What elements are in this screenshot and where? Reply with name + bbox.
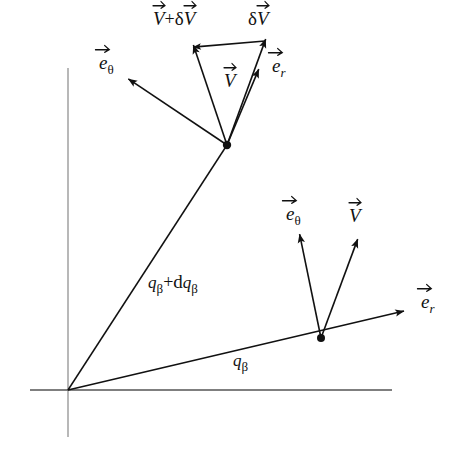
label-e-theta-upper: eθ xyxy=(99,52,114,76)
label-e-r-upper: er xyxy=(272,55,286,79)
label-v-lower: V xyxy=(349,205,361,225)
lower-vector-bundle xyxy=(300,234,358,338)
position-points-group xyxy=(223,141,325,342)
diagram-canvas xyxy=(0,0,465,449)
e-theta-upper-arrow xyxy=(128,79,227,145)
axes-group xyxy=(30,68,392,437)
v-plus-delta-v-arrow xyxy=(193,45,227,145)
upper-position-point xyxy=(223,141,231,149)
lower-position-point xyxy=(317,334,325,342)
label-angle-upper: qβ+dqβ xyxy=(148,272,198,295)
e-theta-lower-arrow xyxy=(300,234,321,338)
label-e-theta-lower: eθ xyxy=(286,203,301,227)
label-delta-v: δV xyxy=(248,8,269,28)
delta-v-arrow xyxy=(193,41,265,47)
label-angle-lower: qβ xyxy=(233,352,248,373)
ray-q-beta-plus-dq-beta xyxy=(68,145,227,390)
label-v-upper: V xyxy=(224,70,236,90)
label-e-r-lower: er xyxy=(421,291,435,315)
upper-vector-bundle xyxy=(128,39,265,145)
label-v-plus-delta-v: V+δV xyxy=(153,8,195,28)
vector-diagram-figure: V+δV δV V eθ er eθ V er qβ+dqβ qβ xyxy=(0,0,465,449)
